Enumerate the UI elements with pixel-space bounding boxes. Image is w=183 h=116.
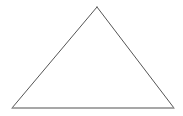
triangle-figure: [0, 0, 183, 116]
canvas-background: [0, 0, 183, 116]
drawing-canvas: [0, 0, 183, 116]
